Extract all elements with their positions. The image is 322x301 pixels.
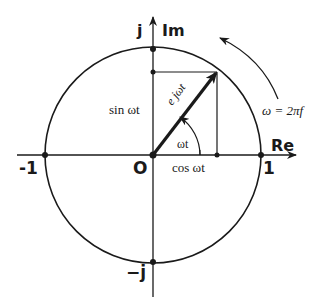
unit-circle-diagram: j Im Re -1 1 O −j sin ωt cos ωt ωt e jωt… xyxy=(0,0,322,301)
angle-label: ωt xyxy=(177,138,188,150)
imag-unit-label: j xyxy=(137,23,142,39)
real-axis-label: Re xyxy=(271,138,294,154)
cosine-label: cos ωt xyxy=(172,161,205,174)
neg-j-label: −j xyxy=(126,264,146,281)
imag-axis-label: Im xyxy=(162,23,185,39)
angular-frequency-label: ω = 2πf xyxy=(262,104,303,117)
one-label: 1 xyxy=(263,160,275,177)
neg-one-label: -1 xyxy=(19,160,38,177)
sine-label: sin ωt xyxy=(109,103,140,116)
rotation-arrow xyxy=(220,38,278,99)
origin-label: O xyxy=(133,160,147,177)
